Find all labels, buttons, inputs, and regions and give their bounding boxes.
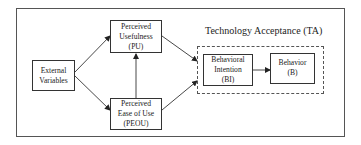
node-label: External bbox=[41, 66, 67, 76]
node-label: (B) bbox=[287, 68, 297, 78]
arrow-peou-to-ta bbox=[162, 81, 197, 110]
arrow-ev-to-pu bbox=[75, 36, 110, 72]
node-perceived-usefulness: Perceived Usefulness (PU) bbox=[110, 20, 162, 53]
arrow-pu-to-ta bbox=[162, 36, 197, 61]
node-label: Perceived bbox=[121, 22, 151, 32]
technology-acceptance-title: Technology Acceptance (TA) bbox=[205, 25, 322, 36]
node-label: (BI) bbox=[222, 75, 235, 85]
node-label: Variables bbox=[39, 76, 67, 86]
node-label: Usefulness bbox=[119, 32, 152, 42]
node-label: Perceived bbox=[121, 99, 151, 109]
node-label: (PU) bbox=[129, 42, 144, 52]
node-label: Behavioral bbox=[211, 55, 244, 65]
arrow-ev-to-peou bbox=[75, 76, 110, 110]
node-behavior: Behavior (B) bbox=[270, 53, 315, 84]
node-label: (PEOU) bbox=[124, 119, 149, 129]
node-label: Ease of Use bbox=[118, 109, 154, 119]
node-label: Behavior bbox=[279, 58, 307, 68]
node-perceived-ease-of-use: Perceived Ease of Use (PEOU) bbox=[110, 98, 162, 130]
node-behavioral-intention: Behavioral Intention (BI) bbox=[203, 54, 253, 86]
node-external-variables: External Variables bbox=[32, 60, 75, 91]
node-label: Intention bbox=[214, 65, 241, 75]
